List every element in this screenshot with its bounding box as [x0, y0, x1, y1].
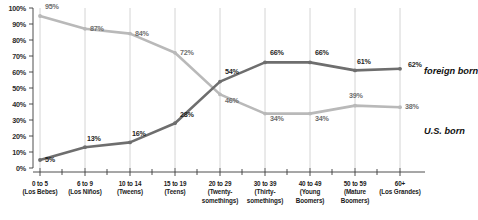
data-point [38, 158, 42, 162]
data-label-foreign-born-4: 54% [225, 67, 239, 76]
y-axis [29, 8, 33, 168]
data-point [353, 69, 357, 73]
data-point [83, 27, 87, 31]
y-axis-tick-label: 50% [0, 84, 26, 93]
y-axis-tick-label: 90% [0, 20, 26, 29]
data-label-foreign-born-0: 5% [45, 155, 55, 164]
y-axis-tick-label: 100% [0, 4, 26, 13]
legend-label-foreign-born: foreign born [424, 66, 478, 76]
legend-label-us-born: U.S. born [424, 126, 465, 136]
data-point [218, 80, 222, 84]
data-point [218, 93, 222, 97]
data-point [398, 105, 402, 109]
data-label-foreign-born-6: 66% [315, 48, 329, 57]
data-point [263, 61, 267, 65]
data-label-foreign-born-8: 62% [408, 60, 422, 69]
data-label-u-s--born-0: 95% [45, 2, 59, 11]
data-point [128, 32, 132, 36]
data-point [83, 145, 87, 149]
x-axis-label-8: 60+(Los Grandes) [368, 180, 432, 197]
data-label-foreign-born-1: 13% [87, 134, 101, 143]
data-point [173, 121, 177, 125]
data-label-foreign-born-3: 28% [180, 110, 194, 119]
data-point [38, 14, 42, 18]
y-axis-tick-label: 30% [0, 116, 26, 125]
y-axis-tick-label: 10% [0, 148, 26, 157]
x-axis [33, 168, 425, 176]
data-label-u-s--born-5: 34% [270, 114, 284, 123]
y-axis-tick-label: 0% [0, 164, 26, 173]
data-point [353, 104, 357, 108]
data-label-u-s--born-7: 39% [349, 91, 363, 100]
data-point [263, 112, 267, 116]
y-axis-tick-label: 40% [0, 100, 26, 109]
data-label-u-s--born-1: 87% [90, 24, 104, 33]
data-label-u-s--born-4: 46% [225, 96, 239, 105]
data-label-u-s--born-2: 84% [135, 29, 149, 38]
data-point [398, 67, 402, 71]
y-axis-tick-label: 20% [0, 132, 26, 141]
data-label-u-s--born-3: 72% [180, 48, 194, 57]
data-point [128, 141, 132, 145]
y-axis-tick-label: 80% [0, 36, 26, 45]
data-point [308, 61, 312, 65]
data-label-u-s--born-6: 34% [315, 114, 329, 123]
data-label-u-s--born-8: 38% [405, 102, 419, 111]
y-axis-tick-label: 70% [0, 52, 26, 61]
data-label-foreign-born-7: 61% [357, 57, 371, 66]
data-point [308, 112, 312, 116]
data-point [173, 51, 177, 55]
y-axis-tick-label: 60% [0, 68, 26, 77]
data-label-foreign-born-5: 66% [270, 48, 284, 57]
data-label-foreign-born-2: 16% [132, 129, 146, 138]
